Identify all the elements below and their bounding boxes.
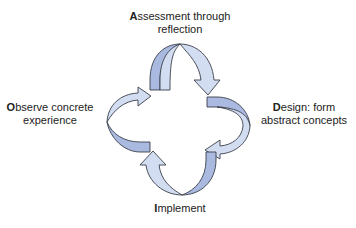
stage-text: esign: form [281,101,335,113]
arrow-top [150,44,220,95]
stage-initial: D [273,101,281,113]
stage-initial: O [7,101,16,113]
stage-label-implement: Implement [140,202,220,215]
stage-label-design: Design: form abstract concepts [252,101,356,127]
arrow-left-front [107,87,151,122]
arrow-top-front [160,44,220,95]
stage-text-line2: reflection [158,23,203,35]
arrow-left [107,87,151,152]
stage-text-line2: abstract concepts [261,114,347,126]
arrow-bottom-back [182,152,216,195]
arrow-bottom [140,151,216,195]
stage-text: ssessment through [138,10,231,22]
stage-text-line2: experience [23,114,77,126]
stage-text: mplement [157,202,205,214]
stage-initial: A [130,10,138,22]
stage-label-assessment: Assessment through reflection [100,10,260,36]
arrow-bottom-front [140,151,182,195]
arrow-left-back [107,122,150,152]
arrow-right-front [205,107,250,159]
stage-label-observe: Observe concrete experience [0,101,100,127]
stage-text: bserve concrete [15,101,93,113]
arrow-right [205,97,250,159]
